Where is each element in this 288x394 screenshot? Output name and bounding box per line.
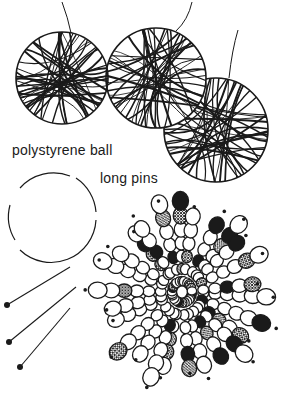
label-long-pins: long pins — [100, 170, 158, 186]
long-pins — [4, 267, 76, 370]
polystyrene-ball-outline — [8, 173, 96, 263]
label-polystyrene-ball: polystyrene ball — [12, 142, 112, 158]
craft-drawing — [0, 0, 288, 394]
illustration-canvas: polystyrene ball long pins — [0, 0, 288, 394]
bead-ball — [83, 191, 278, 389]
string-ball-1 — [11, 27, 112, 128]
